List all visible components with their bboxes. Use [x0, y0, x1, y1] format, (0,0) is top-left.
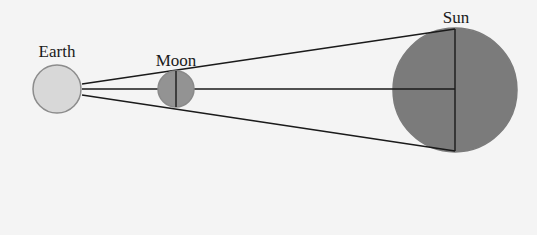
diagram-canvas: Earth Moon Sun — [0, 0, 537, 235]
earth-moon-sun-diagram: Earth Moon Sun — [0, 0, 537, 235]
sun-label: Sun — [443, 8, 470, 27]
earth-label: Earth — [39, 42, 76, 61]
earth-circle — [33, 65, 81, 113]
moon-label: Moon — [156, 51, 197, 70]
